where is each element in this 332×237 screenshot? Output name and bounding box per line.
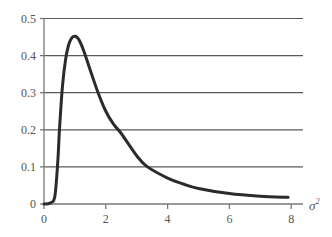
y-axis-ticks: 00.10.20.30.40.5 <box>21 12 44 212</box>
density-chart: 00.10.20.30.40.5 02468 σ2 <box>0 0 332 237</box>
x-tick-label: 4 <box>165 212 171 226</box>
x-axis-ticks: 02468 <box>41 204 294 226</box>
y-tick-label: 0.4 <box>21 49 36 63</box>
x-tick-label: 2 <box>103 212 109 226</box>
y-tick-label: 0 <box>30 197 36 211</box>
x-tick-label: 8 <box>288 212 294 226</box>
x-tick-label: 6 <box>226 212 232 226</box>
y-tick-label: 0.5 <box>21 12 36 26</box>
y-tick-label: 0.1 <box>21 160 36 174</box>
y-tick-label: 0.2 <box>21 123 36 137</box>
density-curve <box>44 36 288 204</box>
x-axis-label: σ2 <box>309 197 319 213</box>
x-tick-label: 0 <box>41 212 47 226</box>
horizontal-gridlines <box>44 19 303 167</box>
y-tick-label: 0.3 <box>21 86 36 100</box>
